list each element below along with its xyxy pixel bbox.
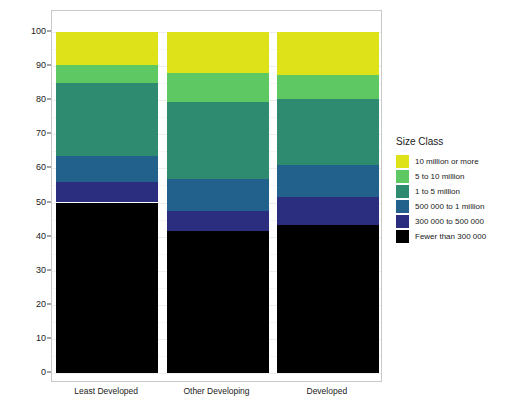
bar-segment[interactable] <box>277 225 379 373</box>
bar-group[interactable] <box>56 11 158 383</box>
plot-area <box>52 11 381 381</box>
legend-swatch <box>396 230 409 243</box>
bar-segment[interactable] <box>167 102 269 179</box>
legend-swatch <box>396 170 409 183</box>
legend-item-label: 5 to 10 million <box>415 172 464 181</box>
x-tick-label: Other Developing <box>183 386 249 396</box>
bar-segment[interactable] <box>56 203 158 374</box>
y-tick-label: 50 <box>22 197 46 206</box>
y-tick-label: 20 <box>22 299 46 308</box>
bar-segment[interactable] <box>167 73 269 102</box>
bar-segment[interactable] <box>167 32 269 73</box>
y-tick-label: 80 <box>22 95 46 104</box>
legend-title: Size Class <box>396 136 508 147</box>
y-tick-label: 30 <box>22 265 46 274</box>
legend-swatch <box>396 200 409 213</box>
y-tick-label: 100 <box>22 27 46 36</box>
bar-segment[interactable] <box>56 182 158 202</box>
bar-segment[interactable] <box>167 179 269 211</box>
legend-item[interactable]: 1 to 5 million <box>396 184 508 199</box>
legend-swatch <box>396 185 409 198</box>
y-tick-label: 10 <box>22 333 46 342</box>
legend-swatch <box>396 155 409 168</box>
legend-item[interactable]: 5 to 10 million <box>396 169 508 184</box>
bar-segment[interactable] <box>56 156 158 182</box>
legend-item-label: 300 000 to 500 000 <box>415 217 484 226</box>
x-tick-label: Developed <box>307 386 348 396</box>
bar-segment[interactable] <box>167 231 269 373</box>
y-tick-label: 70 <box>22 129 46 138</box>
legend-items: 10 million or more5 to 10 million1 to 5 … <box>396 154 508 244</box>
legend-item-label: 1 to 5 million <box>415 187 460 196</box>
bar-group[interactable] <box>277 11 379 383</box>
x-tick-label: Least Developed <box>74 386 138 396</box>
legend-item[interactable]: 500 000 to 1 million <box>396 199 508 214</box>
y-tick-label: 40 <box>22 231 46 240</box>
bar-segment[interactable] <box>277 75 379 100</box>
legend-item[interactable]: 300 000 to 500 000 <box>396 214 508 229</box>
bar-segment[interactable] <box>277 32 379 75</box>
y-tick-label: 60 <box>22 163 46 172</box>
bar-segment[interactable] <box>277 197 379 224</box>
bar-segment[interactable] <box>56 83 158 156</box>
legend: Size Class 10 million or more5 to 10 mil… <box>396 136 508 244</box>
y-tick-label: 0 <box>22 368 46 377</box>
legend-item[interactable]: 10 million or more <box>396 154 508 169</box>
bar-segment[interactable] <box>277 99 379 165</box>
y-tick-label: 90 <box>22 61 46 70</box>
plot-panel <box>51 10 382 382</box>
stacked-bar-chart: Percentage of Urban Population 010203040… <box>0 0 509 404</box>
legend-item-label: 10 million or more <box>415 157 479 166</box>
y-axis: 0102030405060708090100 <box>12 0 46 404</box>
legend-swatch <box>396 215 409 228</box>
bar-group[interactable] <box>167 11 269 383</box>
legend-item[interactable]: Fewer than 300 000 <box>396 229 508 244</box>
bar-segment[interactable] <box>167 211 269 231</box>
bar-segment[interactable] <box>277 165 379 197</box>
legend-item-label: Fewer than 300 000 <box>415 232 486 241</box>
bar-segment[interactable] <box>56 32 158 65</box>
legend-item-label: 500 000 to 1 million <box>415 202 484 211</box>
bar-segment[interactable] <box>56 65 158 83</box>
